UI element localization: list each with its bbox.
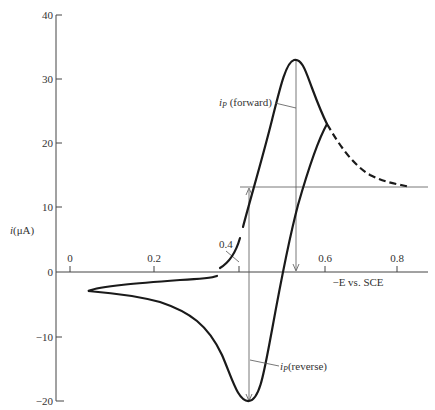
y-tick-neg10: −10 (36, 331, 54, 343)
ip-reverse-label: iP(reverse) (280, 360, 327, 374)
curve-potential-label: 0.4 (219, 238, 233, 250)
ip-forward-label: iP (forward) (219, 96, 272, 110)
x-tick-0.6: 0.6 (318, 252, 332, 264)
y-tick-30: 30 (42, 73, 54, 85)
y-tick-20: 20 (42, 137, 54, 149)
y-tick-neg20: −20 (36, 395, 54, 407)
x-tick-0.8: 0.8 (390, 252, 404, 264)
y-axis-label: i(μA) (10, 224, 35, 237)
y-axis (56, 15, 64, 401)
cyclic-voltammogram: 40 30 20 10 0 −10 −20 i(μA) 0 0.2 0.6 0.… (0, 0, 435, 410)
y-tick-0: 0 (48, 266, 54, 278)
y-tick-40: 40 (42, 9, 54, 21)
y-tick-10: 10 (42, 201, 54, 213)
x-tick-0.2: 0.2 (147, 252, 161, 264)
x-axis-label: −E vs. SCE (332, 276, 383, 288)
x-tick-labels: 0 0.2 0.6 0.8 (67, 252, 404, 264)
y-tick-labels: 40 30 20 10 0 −10 −20 (36, 9, 54, 407)
forward-scan-dashed-curve (327, 124, 410, 187)
x-axis (56, 266, 428, 272)
ip-forward-leader (275, 103, 296, 108)
x-tick-0: 0 (67, 252, 73, 264)
